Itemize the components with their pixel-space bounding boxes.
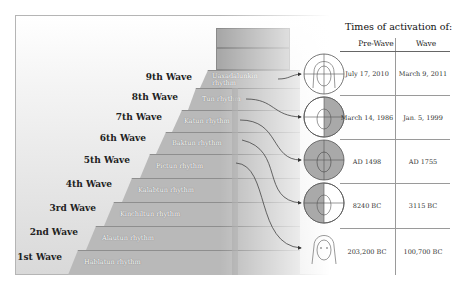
row-divider-1 xyxy=(340,95,450,96)
cell-wave-row1: March 9, 2011 xyxy=(394,70,452,78)
cell-pre-wave-row4: 8240 BC xyxy=(338,202,396,210)
cell-wave-row4: 3115 BC xyxy=(394,202,452,210)
connector-arrows xyxy=(236,74,301,248)
cell-wave-row3: AD 1755 xyxy=(394,158,452,166)
cell-wave-row2: Jan. 5, 1999 xyxy=(394,114,452,122)
table-title: Times of activation of: xyxy=(345,21,452,32)
header-divider xyxy=(340,51,450,52)
cell-wave-row5: 100,700 BC xyxy=(394,248,452,256)
cell-pre-wave-row5: 203,200 BC xyxy=(338,248,396,256)
face-icon-plain xyxy=(312,236,336,265)
row-divider-2 xyxy=(340,139,450,140)
cell-pre-wave-row3: AD 1498 xyxy=(338,158,396,166)
row-divider-3 xyxy=(340,183,450,184)
row-divider-4 xyxy=(340,228,450,229)
column-header-wave: Wave xyxy=(400,39,452,48)
cell-pre-wave-row1: July 17, 2010 xyxy=(338,70,396,78)
cell-pre-wave-row2: March 14, 1986 xyxy=(338,114,396,122)
